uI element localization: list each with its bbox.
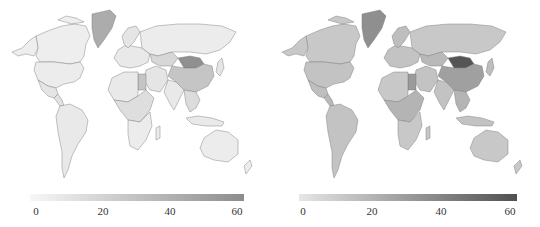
world-map-left (0, 0, 270, 185)
region-australia (470, 130, 508, 162)
map-panel-right: 0 20 40 60 (270, 0, 540, 227)
region-scandinavia (392, 26, 410, 48)
region-egypt (408, 74, 416, 90)
region-middle-east (144, 66, 168, 92)
region-new-zealand (514, 160, 522, 174)
region-north-africa (378, 72, 408, 102)
region-alaska (12, 36, 38, 56)
map-panel-left: 0 20 40 60 (0, 0, 270, 227)
region-madagascar (426, 126, 430, 140)
colorbar-right (299, 194, 517, 201)
colorbar-left (30, 194, 244, 201)
region-new-zealand (244, 160, 252, 174)
colorbar-tick-40: 40 (165, 205, 176, 217)
region-madagascar (156, 126, 160, 140)
colorbar-tick-40: 40 (436, 205, 447, 217)
region-egypt (138, 74, 146, 90)
colorbar-tick-20: 20 (367, 205, 378, 217)
region-south-america (326, 104, 358, 178)
region-russia (410, 24, 506, 56)
colorbar-tick-20: 20 (98, 205, 109, 217)
world-map-right (270, 0, 540, 185)
region-japan (486, 58, 494, 76)
region-japan (216, 58, 224, 76)
region-scandinavia (122, 26, 140, 48)
colorbar-tick-0: 0 (33, 205, 39, 217)
colorbar-tick-0: 0 (300, 205, 306, 217)
region-australia (200, 130, 238, 162)
region-southeast-asia (454, 90, 470, 112)
region-canada (306, 16, 360, 64)
colorbar-tick-60: 60 (232, 205, 243, 217)
region-indonesia (456, 116, 494, 126)
region-greenland (362, 10, 386, 48)
colorbar-tick-60: 60 (505, 205, 516, 217)
region-middle-east (414, 66, 438, 92)
region-southeast-asia (184, 90, 200, 112)
region-alaska (282, 36, 308, 56)
region-canada (36, 16, 90, 64)
region-indonesia (186, 116, 224, 126)
region-greenland (92, 10, 116, 48)
region-south-america (56, 104, 88, 178)
region-north-africa (108, 72, 138, 102)
region-russia (140, 24, 236, 56)
